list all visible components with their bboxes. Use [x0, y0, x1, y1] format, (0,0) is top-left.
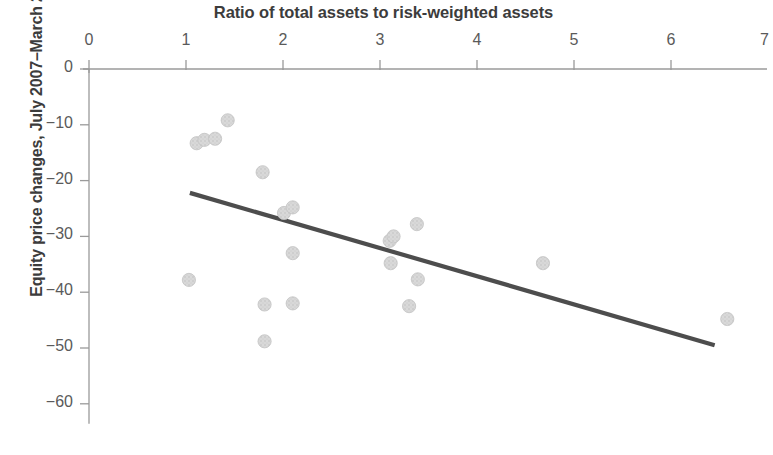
y-tick-label: −40 [13, 281, 73, 299]
data-point [721, 312, 734, 325]
data-point [258, 335, 271, 348]
x-tick-label: 7 [760, 31, 773, 49]
x-tick-label: 5 [554, 31, 594, 49]
data-point-marker [403, 300, 416, 313]
data-point-marker [221, 114, 234, 127]
y-tick-label: 0 [13, 58, 73, 76]
data-point-marker [387, 230, 400, 243]
x-tick-label: 1 [166, 31, 206, 49]
data-point-marker [286, 247, 299, 260]
y-tick-label: −50 [13, 337, 73, 355]
data-point [286, 297, 299, 310]
data-point [410, 218, 423, 231]
data-point-group [182, 114, 734, 348]
y-tick-label: −20 [13, 170, 73, 188]
data-point [286, 201, 299, 214]
y-tick-label: −60 [13, 393, 73, 411]
x-tick-label: 4 [457, 31, 497, 49]
data-point-marker [286, 297, 299, 310]
x-tick-label: 2 [263, 31, 303, 49]
data-point [209, 132, 222, 145]
data-point [536, 257, 549, 270]
data-point-marker [721, 312, 734, 325]
data-point [182, 273, 195, 286]
x-tick-label: 0 [69, 31, 109, 49]
data-point-marker [536, 257, 549, 270]
data-point-marker [286, 201, 299, 214]
trend-line [190, 193, 715, 345]
y-tick-label: −30 [13, 225, 73, 243]
data-point [403, 300, 416, 313]
data-point [286, 247, 299, 260]
data-point-marker [182, 273, 195, 286]
data-point [258, 298, 271, 311]
data-point-marker [256, 166, 269, 179]
data-point [411, 273, 424, 286]
y-tick-label: −10 [13, 114, 73, 132]
data-point [256, 166, 269, 179]
x-tick-label: 3 [360, 31, 400, 49]
data-point-marker [209, 132, 222, 145]
data-point-marker [411, 273, 424, 286]
data-point [384, 257, 397, 270]
data-point [221, 114, 234, 127]
data-point [387, 230, 400, 243]
data-point-marker [258, 298, 271, 311]
x-tick-label: 6 [651, 31, 691, 49]
data-point-marker [258, 335, 271, 348]
data-point-marker [410, 218, 423, 231]
data-point-marker [384, 257, 397, 270]
